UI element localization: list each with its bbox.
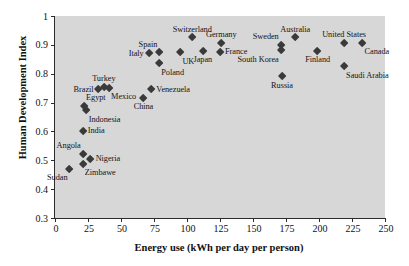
data-point-label: Russia — [271, 81, 293, 90]
y-axis-tick: 0.6 — [51, 131, 55, 132]
plot-area: SudanZimbaweAngolaNigeriaIndiaIndonesiaE… — [54, 16, 385, 219]
diamond-marker-icon — [215, 48, 224, 57]
data-point-label: Australia — [280, 25, 310, 34]
data-point-label: Italy — [129, 49, 144, 58]
data-point-label: Saudi Arabia — [346, 71, 389, 80]
y-axis-tick: 1 — [51, 16, 55, 17]
x-axis-tick: 75 — [154, 218, 155, 222]
data-point-label: Turkey — [92, 74, 115, 83]
data-point-label: Canada — [365, 47, 390, 56]
y-axis-tick-label: 0.4 — [36, 184, 49, 196]
x-axis-tick: 175 — [286, 218, 287, 222]
data-point-label: Poland — [161, 68, 184, 77]
y-axis-tick-label: 0.8 — [36, 68, 49, 80]
data-point-label: Japan — [194, 55, 213, 64]
data-point-label: United States — [322, 30, 366, 39]
x-axis-title: Energy use (kWh per day per person) — [54, 242, 384, 253]
x-axis-tick: 200 — [319, 218, 320, 222]
x-axis-tick-label: 175 — [280, 223, 295, 235]
x-axis-tick: 0 — [55, 218, 56, 222]
data-point-label: Nigeria — [96, 154, 121, 163]
x-axis-tick: 150 — [253, 218, 254, 222]
y-axis-tick: 0.5 — [51, 160, 55, 161]
diamond-marker-icon — [86, 155, 95, 164]
x-axis-tick-label: 0 — [54, 223, 59, 235]
data-point-label: Angola — [57, 141, 81, 150]
data-point-label: Spain — [139, 40, 158, 49]
diamond-marker-icon — [147, 85, 156, 94]
y-axis-tick: 0.8 — [51, 74, 55, 75]
data-point-label: China — [134, 102, 154, 111]
x-axis-tick-label: 75 — [150, 223, 160, 235]
x-axis-tick: 225 — [352, 218, 353, 222]
y-axis-title: Human Development Index — [17, 0, 28, 198]
data-point-label: Mexico — [111, 92, 136, 101]
x-axis-tick-label: 150 — [247, 223, 262, 235]
diamond-marker-icon — [144, 49, 153, 58]
x-axis-tick-label: 25 — [84, 223, 94, 235]
x-axis-tick: 100 — [187, 218, 188, 222]
data-point-label: South Korea — [238, 55, 279, 64]
y-axis-tick-label: 0.9 — [36, 39, 49, 51]
x-axis-tick: 125 — [220, 218, 221, 222]
data-point-label: Venezuela — [156, 85, 190, 94]
data-point-label: Sudan — [47, 173, 68, 182]
x-axis-tick-label: 250 — [379, 223, 394, 235]
y-axis-tick-label: 0.3 — [36, 213, 49, 225]
diamond-marker-icon — [291, 33, 300, 42]
y-axis-tick-label: 0.7 — [36, 97, 49, 109]
data-point-label: India — [88, 126, 105, 135]
data-point-label: Brazil — [74, 85, 94, 94]
data-point-label: Germany — [206, 30, 237, 39]
y-axis-tick: 0.9 — [51, 45, 55, 46]
data-points-layer: SudanZimbaweAngolaNigeriaIndiaIndonesiaE… — [55, 16, 385, 218]
y-axis-tick: 0.4 — [51, 189, 55, 190]
y-axis-tick-label: 0.6 — [36, 126, 49, 138]
data-point-label: Finland — [305, 55, 330, 64]
data-point-label: Sweden — [253, 32, 279, 41]
data-point-label: Egypt — [86, 93, 106, 102]
x-axis-tick-label: 200 — [313, 223, 328, 235]
x-axis-tick: 50 — [121, 218, 122, 222]
diamond-marker-icon — [340, 39, 349, 48]
scatter-chart-figure: SudanZimbaweAngolaNigeriaIndiaIndonesiaE… — [0, 0, 409, 266]
y-axis-tick: 0.7 — [51, 103, 55, 104]
x-axis-tick: 250 — [385, 218, 386, 222]
x-axis-tick-label: 50 — [117, 223, 127, 235]
data-point-label: UK — [182, 57, 194, 66]
data-point-label: Indonesia — [89, 115, 121, 124]
x-axis-tick-label: 225 — [346, 223, 361, 235]
x-axis-tick-label: 100 — [181, 223, 196, 235]
diamond-marker-icon — [78, 127, 87, 136]
x-axis-tick-label: 125 — [214, 223, 229, 235]
y-axis-tick-label: 1 — [43, 11, 48, 23]
diamond-marker-icon — [155, 48, 164, 57]
data-point-label: Zimbawe — [85, 168, 116, 177]
y-axis-tick-label: 0.5 — [36, 155, 49, 167]
diamond-marker-icon — [188, 33, 197, 42]
x-axis-tick: 25 — [88, 218, 89, 222]
